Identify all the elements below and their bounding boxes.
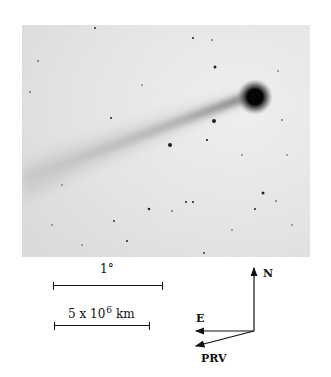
north-label: N	[263, 267, 273, 280]
comet-image	[22, 25, 310, 257]
distance-scale-exponent: 6	[106, 305, 112, 315]
comet-photograph	[22, 25, 310, 257]
angular-scale-bar	[53, 285, 163, 286]
prv-label: PRV	[201, 352, 227, 365]
distance-scale-label: 5 x 106 km	[68, 307, 135, 321]
distance-scale-base: 5 x 10	[68, 307, 105, 321]
east-label: E	[196, 312, 204, 325]
distance-scale-unit: km	[116, 307, 135, 321]
angular-scale-label: 1°	[100, 262, 114, 276]
distance-scale-bar	[54, 325, 150, 326]
orientation-compass: N E PRV	[185, 260, 285, 370]
